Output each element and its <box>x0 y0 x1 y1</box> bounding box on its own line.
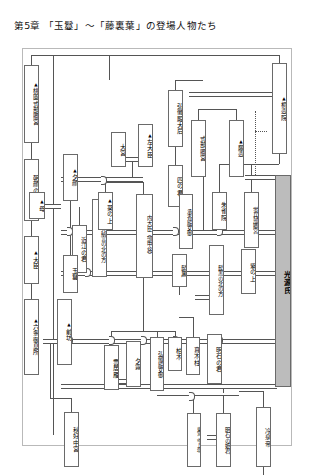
node-suzaku-in[interactable]: 朱雀院 <box>212 192 227 230</box>
connector-suzaku-rail <box>219 164 279 165</box>
node-naidaijin-to-no-chujo[interactable]: 内大臣（頭中将） <box>136 194 153 278</box>
connector-kiritsubo-suzaku <box>279 154 280 164</box>
node-tamakazura[interactable]: 玉鬘 <box>63 255 78 293</box>
connector-reizei-rail <box>239 391 263 392</box>
node-reizei-tei[interactable]: 冷泉帝 <box>256 407 271 467</box>
node-sadaijin[interactable]: 左大臣 <box>138 124 153 167</box>
node-label: 葵の上 <box>106 205 112 224</box>
connector-top-rail <box>31 55 279 56</box>
node-akashi-no-himegimi[interactable]: 明石の姫君 <box>216 413 231 467</box>
node-label: 玉鬘 <box>71 268 77 281</box>
node-label: 藤壺 <box>237 145 243 158</box>
node-hikaru-genji[interactable]: 光源氏 <box>275 175 291 387</box>
connector-omiya-drop <box>109 55 110 80</box>
marriage-rokujo-zenbo <box>43 339 57 344</box>
node-label: 承香殿女御 <box>186 209 192 236</box>
secret-relation-dotted-line <box>255 111 256 177</box>
node-label: 光源氏 <box>282 270 290 294</box>
node-kokiden-no-taigo[interactable]: 弘徽殿大后 <box>168 90 183 147</box>
connector-naidaijin-children-rail <box>111 331 175 332</box>
node-label: 髭黒の北の方 <box>217 265 223 297</box>
node-label: 母 <box>38 206 44 212</box>
marriage-fujitsubo-hikaru <box>245 175 277 180</box>
node-momozono-shikibukyo-no-miya[interactable]: 桃園式部卿宮 <box>24 65 39 143</box>
node-shikibukyo-no-miya[interactable]: 式部卿宮 <box>191 120 206 177</box>
node-label: 雲居雁 <box>112 359 118 378</box>
node-label: 真木柱 <box>193 347 199 366</box>
node-label: 桐壺院 <box>280 102 286 121</box>
node-akikonomu-chugu[interactable]: 秋好中宮 <box>64 412 79 467</box>
connector-kokiden-taigo-drop <box>175 80 176 90</box>
node-togu-kinjo-tei[interactable]: 東宮（今上帝） <box>187 413 201 467</box>
node-daijin[interactable]: 大臣 <box>24 236 39 284</box>
connector-akashihime-drop <box>223 395 224 413</box>
connector-rokujo-akikonomu <box>50 342 51 398</box>
node-label: 冷泉帝 <box>264 428 270 447</box>
node-omiya[interactable]: 大宮 <box>111 132 126 167</box>
connector-makibashira-drop <box>193 317 194 337</box>
node-label: 明石の君 <box>215 347 221 372</box>
node-label: 明石の姫君 <box>224 427 230 454</box>
node-yugiri[interactable]: 夕霧 <box>126 341 141 387</box>
node-label: 六条御息所 <box>32 324 38 356</box>
connector-togu-rail <box>157 395 239 396</box>
connector-shinokimi-drop <box>175 147 176 165</box>
connector-oumi-naidaijin <box>79 207 80 225</box>
connector-sadaijin-children-rail <box>105 182 143 183</box>
connector-akikonomu-drop <box>71 398 72 412</box>
node-label: 前坊 <box>65 329 71 342</box>
node-label: 蛍兵部卿宮 <box>252 207 258 234</box>
node-higekuro[interactable]: 髭黒 <box>172 254 187 287</box>
line-bridge <box>101 176 107 185</box>
connector-kokiden-taigo-rail <box>175 80 203 81</box>
marriage-higekuro-kita <box>195 295 209 300</box>
node-label: 左大臣 <box>146 139 152 158</box>
node-rokujo-no-miyasudokoro[interactable]: 六条御息所 <box>24 299 39 375</box>
connector-shikibukyo-drop <box>198 109 199 120</box>
connector-kiritsubo-drop <box>279 55 280 63</box>
node-shokyoden-nyogo[interactable]: 承香殿女御 <box>179 194 193 249</box>
connector-suzaku-drop <box>219 164 220 192</box>
node-kiritsubo-in[interactable]: 桐壺院 <box>272 63 287 154</box>
node-makibashira[interactable]: 真木柱 <box>186 337 200 375</box>
node-haha[interactable]: 母 <box>29 192 45 219</box>
node-label: 弘徽殿大后 <box>176 103 182 135</box>
node-hotaru-hyobukyo-no-miya[interactable]: 蛍兵部卿宮 <box>244 192 259 248</box>
marriage-kiritsubo-kokiden <box>189 92 275 97</box>
connector-higekuro-children-rail <box>179 317 193 318</box>
marriage-rail-akashi <box>61 384 277 389</box>
connector-fujitsubo-siblings-rail <box>198 109 236 110</box>
connector-fujitsubo-drop <box>236 109 237 120</box>
connector-momozono-drop <box>31 55 32 65</box>
connector-daijin-rokujo <box>31 284 32 299</box>
node-kumoi-no-kari[interactable]: 雲居雁 <box>104 345 119 390</box>
connector-asagao-daijin <box>31 220 32 236</box>
connector-naidaijin-children <box>143 271 144 331</box>
node-zenbo[interactable]: 前坊 <box>57 299 72 365</box>
node-label: 髭黒 <box>180 265 186 278</box>
page-title: 第5章 「玉鬘」～「藤裏葉」の登場人物たち <box>14 18 217 32</box>
node-label: 紫の上 <box>249 263 255 282</box>
node-kashiwagi[interactable]: 柏木 <box>168 337 182 371</box>
node-label: 大宮 <box>119 144 125 157</box>
node-aoi-no-ue[interactable]: 葵の上 <box>98 192 113 230</box>
node-higekuro-no-kitanokata[interactable]: 髭黒の北の方 <box>209 245 224 315</box>
node-label: 式部卿宮 <box>199 136 205 161</box>
node-label: 柏木 <box>175 348 181 361</box>
node-murasaki-no-ue[interactable]: 紫の上 <box>241 249 256 294</box>
node-label: 夕霧 <box>134 358 140 371</box>
node-fujitsubo[interactable]: 藤壺 <box>229 120 244 177</box>
connector-reizei-drop <box>263 391 264 407</box>
node-label: 近江の君 <box>80 237 86 262</box>
node-label: 内大臣（頭中将） <box>146 215 152 257</box>
connector-naidaijin-drop <box>143 182 144 194</box>
node-yugao[interactable]: 夕顔 <box>63 154 78 201</box>
connector-akikonomu-rail <box>50 398 71 399</box>
line-bridge <box>189 392 195 401</box>
connector-momozono-asagao <box>31 142 32 159</box>
genealogy-diagram: 桃園式部卿宮 朝顔の姫君 大臣 六条御息所 前坊 秋好中宮 夕顔 母 近江の君 … <box>22 48 292 446</box>
connector-shikibukyo-murasaki <box>203 177 204 230</box>
node-kokiden-nyogo[interactable]: 弘徽殿女御 <box>150 337 164 391</box>
node-label: 東宮（今上帝） <box>196 427 200 455</box>
node-akashi-no-kimi[interactable]: 明石の君 <box>207 334 222 384</box>
